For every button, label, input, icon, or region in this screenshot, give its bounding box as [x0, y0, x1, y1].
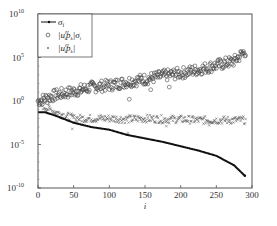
series-circles [36, 50, 247, 107]
x-tick-label: 200 [174, 190, 188, 200]
x-tick-label: 300 [245, 190, 259, 200]
y-tick-label: 100 [12, 95, 24, 106]
legend-dot-icon [48, 21, 50, 23]
legend-label-projection-sigma: |uHipk|σi [58, 30, 82, 41]
chart: 050100150200250300 101010510010-510-10 i… [0, 0, 277, 226]
x-tick-label: 150 [138, 190, 152, 200]
legend-label-projection: |uHipk| [58, 43, 75, 54]
y-tick-label: 1010 [9, 8, 24, 19]
x-tick-label: 0 [36, 190, 41, 200]
y-tick-label: 105 [12, 52, 24, 63]
y-tick-label: 10-10 [7, 182, 24, 193]
x-tick-label: 100 [103, 190, 117, 200]
plot-area [36, 50, 247, 178]
x-tick-label: 50 [69, 190, 79, 200]
series-crosses [37, 99, 247, 134]
x-tick-label: 250 [210, 190, 224, 200]
y-tick-label: 10-5 [10, 139, 24, 150]
x-axis-label: i [144, 201, 147, 211]
legend: σi|uHipk|σi|uHipk| [38, 14, 92, 57]
x-axis-ticks: 050100150200250300 [36, 185, 260, 200]
